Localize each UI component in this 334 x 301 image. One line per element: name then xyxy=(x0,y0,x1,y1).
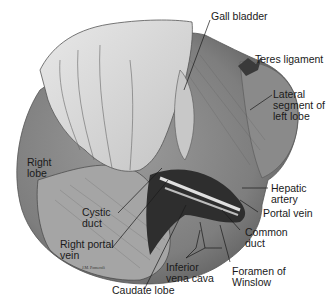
label-inferior-vena-cava: Inferior vena cava xyxy=(166,262,214,284)
label-right-lobe: Right lobe xyxy=(27,157,52,179)
artist-signature: J.M. Pomeroli xyxy=(82,265,105,270)
label-common-duct: Common duct xyxy=(245,227,288,249)
illustration-drawing xyxy=(0,0,334,301)
label-teres-ligament: Teres ligament xyxy=(255,54,323,65)
label-gall-bladder: Gall bladder xyxy=(211,11,268,22)
label-hepatic-artery: Hepatic artery xyxy=(271,183,307,205)
label-cystic-duct: Cystic duct xyxy=(82,207,111,229)
liver-anatomy-figure: Gall bladder Teres ligament Lateral segm… xyxy=(0,0,334,301)
label-lateral-segment-left-lobe: Lateral segment of left lobe xyxy=(273,89,325,122)
label-portal-vein: Portal vein xyxy=(263,208,313,219)
label-right-portal-vein: Right portal vein xyxy=(60,239,114,261)
label-caudate-lobe: Caudate lobe xyxy=(112,285,174,296)
label-foramen-of-winslow: Foramen of Winslow xyxy=(232,266,286,288)
